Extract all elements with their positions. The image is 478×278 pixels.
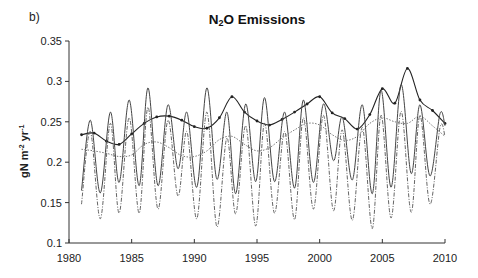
x-tick-label: 2000: [307, 252, 331, 264]
y-tick-label: 0.1: [47, 237, 62, 249]
data-point-marker: [431, 109, 434, 112]
line-chart: 0.10.150.20.250.30.351980198519901995200…: [0, 0, 478, 278]
data-point-marker: [218, 116, 221, 119]
data-point-marker: [180, 119, 183, 122]
x-tick-label: 1990: [182, 252, 206, 264]
series-solid-with-markers: [82, 68, 446, 144]
data-point-marker: [406, 67, 409, 70]
x-tick-label: 2005: [370, 252, 394, 264]
x-tick-label: 2010: [433, 252, 457, 264]
data-point-marker: [205, 127, 208, 130]
data-point-marker: [193, 125, 196, 128]
y-tick-label: 0.3: [47, 75, 62, 87]
data-point-marker: [256, 120, 259, 123]
x-tick-label: 1985: [119, 252, 143, 264]
y-tick-label: 0.2: [47, 156, 62, 168]
y-tick-label: 0.35: [41, 35, 62, 47]
data-point-marker: [118, 143, 121, 146]
data-point-marker: [381, 87, 384, 90]
data-point-marker: [155, 116, 158, 119]
series-group: [80, 67, 446, 228]
data-point-marker: [393, 102, 396, 105]
x-tick-label: 1995: [245, 252, 269, 264]
data-point-marker: [293, 111, 296, 114]
data-point-marker: [343, 117, 346, 120]
data-point-marker: [306, 103, 309, 106]
y-tick-label: 0.15: [41, 197, 62, 209]
series-dotted-smooth: [82, 116, 446, 157]
data-point-marker: [419, 99, 422, 102]
data-point-marker: [331, 112, 334, 115]
data-point-marker: [368, 113, 371, 116]
data-point-marker: [80, 133, 83, 136]
data-point-marker: [231, 95, 234, 98]
x-tick-label: 1980: [57, 252, 81, 264]
data-point-marker: [318, 95, 321, 98]
data-point-marker: [168, 115, 171, 118]
y-tick-label: 0.25: [41, 116, 62, 128]
